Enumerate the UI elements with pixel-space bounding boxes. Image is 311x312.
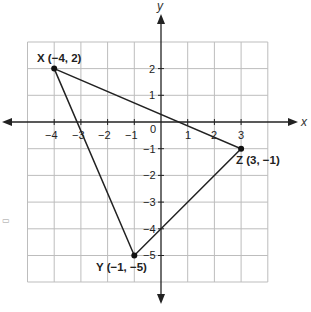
vertex-z bbox=[238, 146, 244, 152]
x-tick-label: 1 bbox=[185, 129, 191, 141]
vertex-z-label: Z (3, −1) bbox=[236, 154, 280, 166]
x-tick-label: −4 bbox=[45, 129, 58, 141]
origin-label: 0 bbox=[150, 123, 156, 135]
coordinate-plane: x y −4 −3 −2 −1 0 1 2 3 2 1 −1 −2 −3 −4 … bbox=[0, 0, 311, 312]
y-tick-label: −2 bbox=[143, 169, 156, 181]
y-tick-label: −4 bbox=[143, 223, 156, 235]
y-tick-label: −5 bbox=[143, 249, 156, 261]
vertex-x bbox=[51, 66, 57, 72]
y-tick-label: −1 bbox=[143, 143, 156, 155]
x-tick-label: −1 bbox=[125, 129, 138, 141]
x-axis-left-arrow-icon bbox=[2, 118, 12, 126]
y-tick-label: 2 bbox=[149, 63, 155, 75]
vertex-y-label: Y (−1, −5) bbox=[96, 261, 147, 273]
x-tick-label: 3 bbox=[238, 129, 244, 141]
x-tick-label: 2 bbox=[211, 129, 217, 141]
x-axis-label: x bbox=[300, 115, 308, 129]
grid bbox=[28, 42, 268, 282]
x-axis-right-arrow-icon bbox=[288, 118, 298, 126]
y-tick-label: −3 bbox=[143, 196, 156, 208]
vertex-y bbox=[131, 253, 137, 259]
margin-mark: ▭ bbox=[2, 216, 10, 225]
y-tick-label: 1 bbox=[149, 89, 155, 101]
vertex-x-label: X (−4, 2) bbox=[37, 52, 82, 64]
y-axis-down-arrow-icon bbox=[157, 294, 165, 304]
x-tick-label: −2 bbox=[98, 129, 111, 141]
y-axis-label: y bbox=[156, 0, 164, 13]
y-axis-up-arrow-icon bbox=[157, 14, 165, 24]
